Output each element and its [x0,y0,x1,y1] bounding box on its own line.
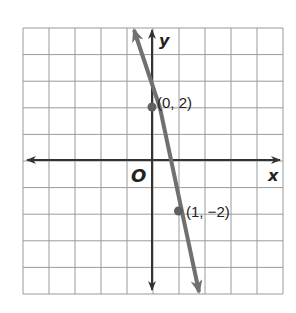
point-0-2 [148,103,157,112]
x-axis-label: x [267,166,279,185]
y-axis-label: y [159,31,170,50]
origin-label: O [131,165,146,186]
coordinate-graph: y x O (0, 2) (1, −2) [0,0,296,313]
point-label-1-neg2: (1, −2) [186,203,230,220]
point-label-0-2: (0, 2) [157,94,192,111]
point-1-neg2 [174,207,183,216]
